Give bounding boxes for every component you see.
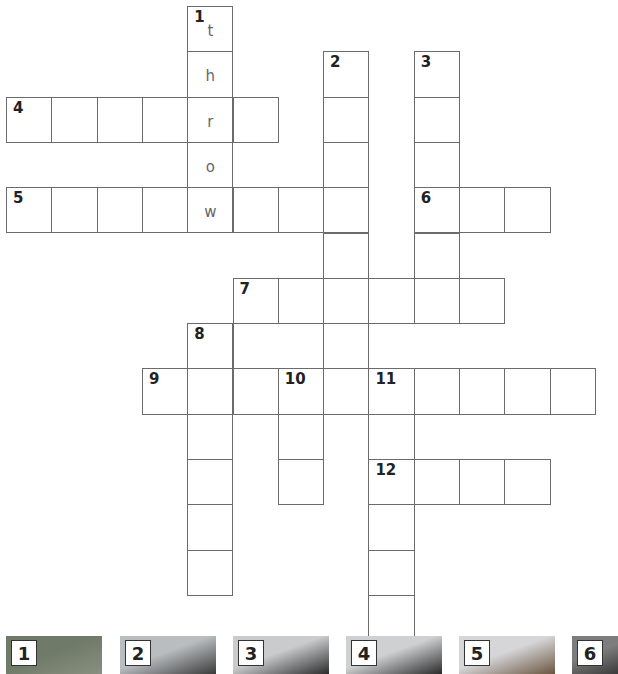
clue-number: 10	[285, 372, 306, 387]
crossword-cell[interactable]	[323, 323, 369, 369]
clue-number: 4	[13, 101, 23, 116]
crossword-cell[interactable]	[97, 187, 143, 233]
crossword-blank-box	[233, 323, 325, 369]
crossword-cell[interactable]: r	[187, 97, 233, 143]
picture-clue-4: 4	[346, 636, 442, 674]
filled-letter: o	[188, 143, 232, 187]
clue-number: 11	[375, 372, 396, 387]
crossword-cell[interactable]: 9	[142, 368, 188, 414]
clue-number: 12	[375, 463, 396, 478]
picture-clue-5: 5	[459, 636, 555, 674]
crossword-cell[interactable]: 8	[187, 323, 233, 369]
crossword-cell[interactable]	[323, 368, 369, 414]
crossword-cell[interactable]: 5	[6, 187, 52, 233]
clue-number: 2	[330, 55, 340, 70]
picture-clue-number: 6	[577, 640, 603, 666]
crossword-cell[interactable]	[414, 233, 460, 279]
crossword-cell[interactable]: 1t	[187, 6, 233, 52]
picture-clue-number: 5	[464, 640, 490, 666]
clue-number: 5	[13, 191, 23, 206]
crossword-cell[interactable]	[278, 278, 324, 324]
crossword-cell[interactable]	[187, 459, 233, 505]
crossword-cell[interactable]	[368, 278, 414, 324]
clue-number: 6	[421, 191, 431, 206]
crossword-cell[interactable]	[414, 459, 460, 505]
crossword-cell[interactable]: 11	[368, 368, 414, 414]
picture-clue-number: 1	[11, 640, 37, 666]
crossword-cell[interactable]	[323, 278, 369, 324]
crossword-cell[interactable]	[142, 187, 188, 233]
crossword-cell[interactable]	[187, 504, 233, 550]
picture-clue-number: 2	[125, 640, 151, 666]
crossword-cell[interactable]	[459, 278, 505, 324]
crossword-cell[interactable]: 10	[278, 368, 324, 414]
crossword-cell[interactable]	[97, 97, 143, 143]
crossword-cell[interactable]	[459, 187, 505, 233]
crossword-grid: 1throw23645789101112	[0, 0, 618, 630]
crossword-cell[interactable]: 7	[233, 278, 279, 324]
picture-clue-3: 3	[233, 636, 329, 674]
crossword-cell[interactable]	[187, 414, 233, 460]
crossword-cell[interactable]	[323, 142, 369, 188]
crossword-cell[interactable]	[51, 187, 97, 233]
crossword-cell[interactable]	[414, 97, 460, 143]
crossword-cell[interactable]	[323, 187, 369, 233]
crossword-cell[interactable]	[323, 97, 369, 143]
crossword-cell[interactable]	[414, 142, 460, 188]
crossword-cell[interactable]	[550, 368, 596, 414]
crossword-cell[interactable]	[187, 368, 233, 414]
picture-clue-6: 6	[572, 636, 618, 674]
crossword-cell[interactable]	[368, 595, 414, 641]
crossword-cell[interactable]	[278, 187, 324, 233]
clue-number: 9	[149, 372, 159, 387]
filled-letter: h	[188, 52, 232, 96]
crossword-cell[interactable]	[414, 368, 460, 414]
clue-number: 3	[421, 55, 431, 70]
clue-number: 7	[240, 282, 250, 297]
filled-letter: r	[188, 98, 232, 142]
filled-letter: w	[188, 188, 232, 232]
crossword-cell[interactable]	[233, 97, 279, 143]
crossword-cell[interactable]: h	[187, 51, 233, 97]
crossword-cell[interactable]	[187, 550, 233, 596]
crossword-cell[interactable]	[142, 97, 188, 143]
crossword-cell[interactable]	[504, 187, 550, 233]
crossword-cell[interactable]: 3	[414, 51, 460, 97]
picture-clue-2: 2	[120, 636, 216, 674]
crossword-cell[interactable]	[323, 233, 369, 279]
crossword-cell[interactable]	[368, 550, 414, 596]
filled-letter: t	[188, 7, 232, 51]
crossword-cell[interactable]	[368, 504, 414, 550]
crossword-cell[interactable]	[51, 97, 97, 143]
crossword-cell[interactable]	[233, 187, 279, 233]
picture-clue-number: 4	[351, 640, 377, 666]
clue-number: 8	[194, 327, 204, 342]
crossword-cell[interactable]: 12	[368, 459, 414, 505]
crossword-cell[interactable]	[278, 459, 324, 505]
crossword-cell[interactable]: o	[187, 142, 233, 188]
crossword-cell[interactable]: 2	[323, 51, 369, 97]
crossword-cell[interactable]	[504, 368, 550, 414]
picture-clue-1: 1	[6, 636, 102, 674]
crossword-cell[interactable]	[459, 368, 505, 414]
crossword-cell[interactable]	[278, 414, 324, 460]
crossword-cell[interactable]	[504, 459, 550, 505]
crossword-cell[interactable]	[459, 459, 505, 505]
crossword-cell[interactable]	[414, 278, 460, 324]
crossword-cell[interactable]: 6	[414, 187, 460, 233]
crossword-cell[interactable]: 4	[6, 97, 52, 143]
picture-clue-number: 3	[238, 640, 264, 666]
crossword-cell[interactable]	[368, 414, 414, 460]
crossword-cell[interactable]	[233, 368, 279, 414]
crossword-cell[interactable]: w	[187, 187, 233, 233]
